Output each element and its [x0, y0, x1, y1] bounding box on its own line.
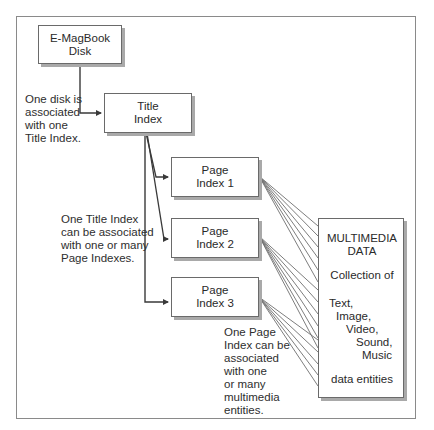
page-index-1-label-line1: Page	[202, 164, 229, 177]
page1-to-media-lines	[259, 176, 318, 282]
multimedia-collection-label: Collection of	[319, 269, 405, 282]
multimedia-title-line2: DATA	[319, 245, 405, 258]
page-index-2-box: Page Index 2	[171, 218, 259, 258]
note-line: or many	[224, 378, 290, 391]
page-index-1-label-line2: Index 1	[196, 177, 234, 190]
note-line: associated	[25, 106, 82, 119]
note-title-to-pages: One Title Index can be associated with o…	[61, 213, 154, 265]
title-index-box: Title Index	[104, 93, 192, 133]
e-magbook-disk-box: E-MagBook Disk	[38, 25, 122, 64]
multimedia-type-video: Video,	[346, 323, 378, 336]
multimedia-data-box: MULTIMEDIA DATA Collection of Text, Imag…	[318, 218, 404, 398]
note-line: One Page	[224, 326, 290, 339]
note-line: Index can be	[224, 339, 290, 352]
page-index-1-box: Page Index 1	[171, 157, 259, 197]
multimedia-type-text: Text,	[329, 297, 353, 310]
page-index-2-label-line1: Page	[202, 225, 229, 238]
note-line: with one or many	[61, 239, 154, 252]
title-to-page1-arrow	[146, 133, 168, 177]
note-line: can be associated	[61, 226, 154, 239]
disk-label-line1: E-MagBook	[50, 32, 110, 45]
multimedia-type-music: Music	[362, 349, 392, 362]
note-line: One disk is	[25, 93, 82, 106]
page-index-3-box: Page Index 3	[171, 277, 259, 317]
note-line: with one	[25, 119, 82, 132]
page-index-2-label-line2: Index 2	[196, 238, 234, 251]
page-index-3-label-line2: Index 3	[196, 297, 234, 310]
note-line: Page Indexes.	[61, 252, 154, 265]
note-page-to-media: One Page Index can be associated with on…	[224, 326, 290, 417]
multimedia-footer: data entities	[319, 373, 405, 386]
note-line: Title Index.	[25, 132, 82, 145]
note-line: with one	[224, 365, 290, 378]
note-line: associated	[224, 352, 290, 365]
note-disk-to-title: One disk is associated with one Title In…	[25, 93, 82, 145]
title-index-label-line2: Index	[134, 113, 162, 126]
multimedia-type-image: Image,	[336, 310, 371, 323]
disk-label-line2: Disk	[69, 45, 91, 58]
note-line: One Title Index	[61, 213, 154, 226]
title-index-label-line1: Title	[137, 100, 158, 113]
page-index-3-label-line1: Page	[202, 284, 229, 297]
note-line: entities.	[224, 404, 290, 417]
multimedia-title-line1: MULTIMEDIA	[319, 232, 405, 245]
multimedia-type-sound: Sound,	[356, 336, 392, 349]
note-line: multimedia	[224, 391, 290, 404]
disk-to-title-arrow	[80, 64, 101, 113]
